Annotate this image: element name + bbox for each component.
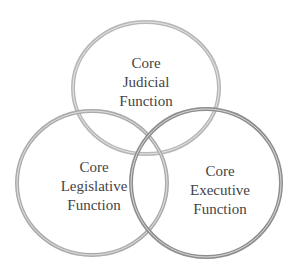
judicial-label-line: Core [96,54,196,73]
legislative-label-line: Core [39,158,149,177]
legislative-label-line: Legislative [39,177,149,196]
legislative-label-line: Function [39,196,149,215]
judicial-label-line: Judicial [96,73,196,92]
executive-label-line: Executive [165,181,275,200]
judicial-label: Core Judicial Function [96,54,196,111]
executive-label-line: Core [165,162,275,181]
executive-label-line: Function [165,200,275,219]
judicial-label-line: Function [96,92,196,111]
executive-label: Core Executive Function [165,162,275,219]
venn-diagram [0,0,298,272]
legislative-label: Core Legislative Function [39,158,149,215]
